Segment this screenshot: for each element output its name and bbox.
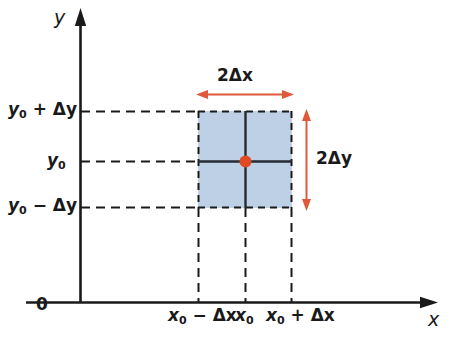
- origin-label: 0: [36, 296, 48, 313]
- y-tick-label-lower: y0 − Δy: [8, 197, 77, 214]
- x-tick-center-subscript: 0: [246, 314, 254, 327]
- dimension-arrowhead-top: [302, 109, 311, 121]
- y-tick-label-center: y0: [47, 152, 66, 169]
- y-tick-lower-suffix: − Δy: [33, 195, 77, 215]
- y-tick-upper-subscript: 0: [19, 108, 27, 121]
- center-point-marker: [240, 156, 252, 168]
- x-tick-label-left: x0 − Δx: [168, 307, 237, 324]
- dimension-arrowhead-bottom: [302, 199, 311, 211]
- y-tick-center-variable: y: [47, 150, 58, 170]
- dimension-arrowhead-right: [282, 90, 294, 99]
- x-tick-right-subscript: 0: [277, 314, 285, 327]
- y-tick-upper-variable: y: [8, 99, 19, 119]
- width-dimension-label: 2Δx: [217, 67, 253, 84]
- x-tick-center-variable: x: [235, 305, 246, 325]
- x-tick-label-right: x0 + Δx: [266, 307, 335, 324]
- height-dimension-label: 2Δy: [316, 150, 352, 167]
- y-tick-label-upper: y0 + Δy: [8, 101, 77, 118]
- x-tick-right-variable: x: [266, 305, 277, 325]
- diagram-canvas: [0, 0, 449, 338]
- dimension-arrowhead-left: [196, 90, 208, 99]
- x-tick-left-suffix: − Δx: [193, 305, 237, 325]
- y-tick-lower-variable: y: [8, 195, 19, 215]
- y-axis-arrowhead: [75, 8, 86, 26]
- x-tick-label-center: x0: [235, 307, 254, 324]
- x-axis-arrowhead: [420, 297, 438, 308]
- y-tick-lower-subscript: 0: [19, 204, 27, 217]
- x-tick-left-variable: x: [168, 305, 179, 325]
- y-axis-label: y: [54, 8, 65, 27]
- y-tick-center-subscript: 0: [58, 159, 66, 172]
- x-tick-left-subscript: 0: [179, 314, 187, 327]
- coordinate-diagram: y x 0 y0 + Δy y0 y0 − Δy x0 − Δx x0 x0 +…: [0, 0, 449, 338]
- x-tick-right-suffix: + Δx: [291, 305, 335, 325]
- y-tick-upper-suffix: + Δy: [33, 99, 77, 119]
- x-axis-label: x: [428, 310, 439, 329]
